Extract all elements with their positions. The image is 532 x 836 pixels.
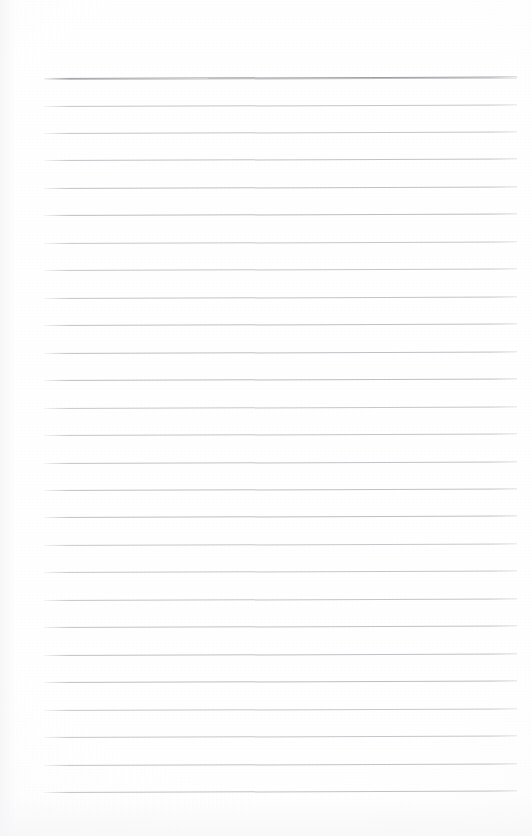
writing-area[interactable]: [44, 78, 517, 792]
notepad-page: [0, 0, 532, 836]
